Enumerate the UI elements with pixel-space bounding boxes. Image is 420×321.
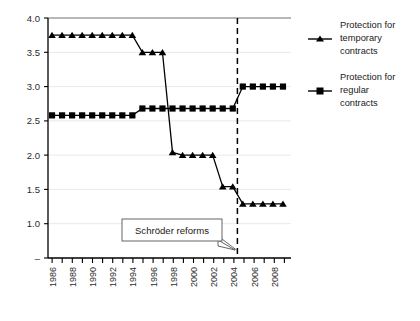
legend-label-regular-line1: Protection for [340,72,395,82]
legend-label-regular-line3: contracts [340,98,378,108]
annotation-label: Schröder reforms [135,225,209,236]
square-marker-icon [159,105,165,111]
square-marker-icon [79,112,85,118]
x-tick-marks [52,258,284,263]
y-tick-label-4-0: 4.0 [27,13,40,24]
x-tick-label-2004: 2004 [229,267,239,287]
square-marker-icon [109,112,115,118]
square-marker-icon [59,112,65,118]
square-marker-icon [190,105,196,111]
square-marker-icon [179,105,185,111]
x-tick-label-1994: 1994 [128,267,138,287]
x-tick-label-1986: 1986 [48,267,58,287]
legend-label-regular-line2: regular [340,85,369,95]
y-tick-label-3-5: 3.5 [27,47,40,58]
square-marker-icon [240,83,246,89]
x-tick-label-2000: 2000 [189,267,199,287]
y-tick-label-2-5: 2.5 [27,115,40,126]
x-tick-label-1998: 1998 [169,267,179,287]
y-tick-label-1-5: 1.5 [27,184,40,195]
x-tick-label-2006: 2006 [250,267,260,287]
y-tick-label-1-0: 1.0 [27,218,40,229]
square-marker-icon [270,83,276,89]
square-marker-icon [139,105,145,111]
x-tick-label-1988: 1988 [68,267,78,287]
chart-legend: Protection for temporary contracts Prote… [308,20,395,108]
square-marker-icon [149,105,155,111]
square-marker-icon [49,112,55,118]
square-marker-icon [317,88,324,95]
x-tick-label-2008: 2008 [270,267,280,287]
square-marker-icon [169,105,175,111]
square-marker-icon [220,105,226,111]
x-tick-label-1992: 1992 [108,267,118,287]
x-tick-label-1996: 1996 [149,267,159,287]
square-marker-icon [260,83,266,89]
square-marker-icon [280,83,286,89]
x-tick-label-2002: 2002 [209,267,219,287]
square-marker-icon [230,105,236,111]
legend-label-temporary-line1: Protection for [340,20,395,30]
square-marker-icon [69,112,75,118]
chart-canvas: 4.0 3.5 3.0 2.5 2.0 1.5 1.0 – [0,0,420,321]
y-tick-label-3-0: 3.0 [27,81,40,92]
legend-item-regular-contracts[interactable]: Protection for regular contracts [308,72,395,108]
square-marker-icon [210,105,216,111]
y-tick-label-2-0: 2.0 [27,150,40,161]
legend-item-temporary-contracts[interactable]: Protection for temporary contracts [308,20,395,56]
legend-label-temporary-line3: contracts [340,46,378,56]
y-tick-label-dash: – [35,253,41,264]
square-marker-icon [89,112,95,118]
chart-figure: 4.0 3.5 3.0 2.5 2.0 1.5 1.0 – [0,0,420,321]
legend-label-temporary-line2: temporary [340,33,382,43]
square-marker-icon [99,112,105,118]
x-tick-label-1990: 1990 [88,267,98,287]
square-marker-icon [119,112,125,118]
square-marker-icon [250,83,256,89]
square-marker-icon [200,105,206,111]
square-marker-icon [129,112,135,118]
